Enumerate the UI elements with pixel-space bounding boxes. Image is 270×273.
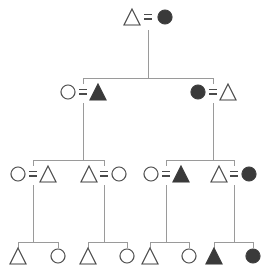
individual-II-1-female-unaffected — [61, 85, 75, 99]
individual-IV-4-female-unaffected — [120, 249, 134, 263]
individual-IV-1-male-unaffected — [10, 248, 26, 264]
individual-IV-7-male-affected — [206, 248, 222, 264]
individual-III-1-female-unaffected — [11, 167, 25, 181]
individual-IV-2-female-unaffected — [51, 249, 65, 263]
individual-I-1-male-unaffected — [124, 9, 140, 25]
individual-III-2-male-unaffected — [40, 166, 56, 182]
individual-II-4-male-unaffected — [220, 84, 236, 100]
individual-III-3-male-unaffected — [81, 166, 97, 182]
individual-II-2-male-affected — [90, 84, 106, 100]
mating-symbols-layer — [29, 15, 238, 177]
individual-III-7-male-unaffected — [211, 166, 227, 182]
individual-III-5-female-unaffected — [144, 167, 158, 181]
pedigree-chart — [0, 0, 270, 273]
individual-II-3-female-affected — [191, 85, 205, 99]
individual-III-6-male-affected — [173, 166, 189, 182]
individual-I-2-female-affected — [158, 10, 172, 24]
individual-symbols-layer — [10, 9, 260, 264]
descent-lines-layer — [18, 30, 253, 248]
individual-IV-5-male-unaffected — [142, 248, 158, 264]
pedigree-diagram — [0, 0, 270, 273]
individual-IV-6-female-unaffected — [182, 249, 196, 263]
individual-III-8-female-affected — [242, 167, 256, 181]
individual-IV-3-male-unaffected — [80, 248, 96, 264]
individual-III-4-female-unaffected — [112, 167, 126, 181]
individual-IV-8-female-affected — [246, 249, 260, 263]
